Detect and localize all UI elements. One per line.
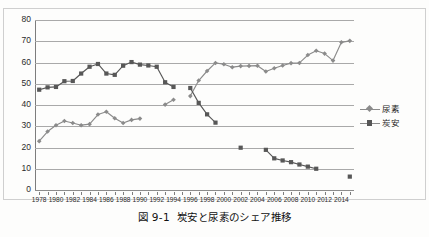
data-point-square (129, 60, 133, 64)
data-point-diamond (272, 66, 277, 71)
x-axis-tick-label: 1980 (49, 196, 64, 204)
data-point-square (171, 85, 175, 89)
data-point-diamond (171, 97, 176, 102)
data-point-square (188, 86, 192, 90)
y-axis-tick-label: 20 (1, 143, 31, 152)
x-axis-tick-label: 2012 (317, 196, 332, 204)
x-axis-tick (224, 192, 225, 195)
x-axis-tick-label: 1994 (166, 196, 181, 204)
data-point-square (314, 167, 318, 171)
data-point-diamond (314, 49, 319, 54)
x-axis-tick-label: 2006 (267, 196, 282, 204)
x-axis-tick (98, 192, 99, 195)
x-axis-tick-label: 1988 (116, 196, 131, 204)
x-axis-tick (132, 192, 133, 195)
x-axis-tick-label: 1986 (99, 196, 114, 204)
x-axis-tick (274, 192, 275, 195)
x-axis-tick-label: 2002 (233, 196, 248, 204)
x-axis-tick (182, 192, 183, 195)
data-point-diamond (339, 40, 344, 45)
x-axis-tick (232, 192, 233, 195)
x-axis-tick (350, 192, 351, 195)
data-point-square (45, 85, 49, 89)
data-point-diamond (129, 118, 134, 123)
data-point-diamond (247, 64, 252, 69)
x-axis-tick (90, 192, 91, 195)
data-point-square (87, 65, 91, 69)
data-series-layer (35, 20, 354, 190)
x-axis-tick (291, 192, 292, 195)
x-axis-tick (257, 192, 258, 195)
data-point-square (205, 112, 209, 116)
data-point-square (348, 175, 352, 179)
data-point-diamond (138, 116, 143, 121)
x-axis-tick (123, 192, 124, 195)
x-axis-tick-label: 1992 (149, 196, 164, 204)
x-axis-tick (115, 192, 116, 195)
x-axis-tick-label: 1982 (65, 196, 80, 204)
x-axis-tick (241, 192, 242, 195)
x-axis-tick (199, 192, 200, 195)
data-point-diamond (79, 123, 84, 128)
data-point-diamond (280, 63, 285, 68)
x-axis-tick (316, 192, 317, 195)
data-point-square (104, 71, 108, 75)
legend-label-urea: 尿素 (380, 104, 400, 114)
series-尿素 (37, 39, 352, 144)
x-axis-tick-label: 2000 (217, 196, 232, 204)
x-axis-tick (333, 192, 334, 195)
data-point-diamond (238, 64, 243, 69)
figure-caption: 図 9-1炭安と尿素のシェア推移 (0, 210, 429, 224)
series-line (39, 62, 173, 90)
x-axis-tick (174, 192, 175, 195)
data-point-square (138, 63, 142, 67)
x-axis-tick (299, 192, 300, 195)
legend-item-urea: 尿素 (360, 102, 424, 116)
y-axis-tick-label: 40 (1, 100, 31, 109)
x-axis-tick (81, 192, 82, 195)
y-axis-tick-label: 50 (1, 79, 31, 88)
x-axis-tick (165, 192, 166, 195)
y-axis-tick-label: 80 (1, 15, 31, 24)
data-point-square (54, 85, 58, 89)
x-axis-tick (215, 192, 216, 195)
data-point-square (213, 121, 217, 125)
data-point-square (96, 62, 100, 66)
x-axis-labels: 1978198019821984198619881990199219941996… (35, 192, 354, 210)
data-point-square (289, 160, 293, 164)
data-point-diamond (62, 119, 67, 124)
x-axis-tick (106, 192, 107, 195)
data-point-square (79, 71, 83, 75)
figure-number: 図 9-1 (138, 211, 171, 223)
data-point-square (264, 148, 268, 152)
data-point-square (121, 64, 125, 68)
x-axis-tick (249, 192, 250, 195)
chart-legend: 尿素 炭安 (360, 102, 424, 132)
x-axis-tick (148, 192, 149, 195)
chart-area: 80706050403020100 1978198019821984198619… (0, 6, 429, 202)
figure-container: 80706050403020100 1978198019821984198619… (0, 0, 429, 237)
x-axis-tick (325, 192, 326, 195)
x-axis-tick (48, 192, 49, 195)
square-icon (360, 118, 380, 128)
data-point-diamond (348, 39, 353, 44)
data-point-square (272, 156, 276, 160)
x-axis-tick-label: 2010 (300, 196, 315, 204)
data-point-square (37, 88, 41, 92)
data-point-square (146, 63, 150, 67)
x-axis-tick (157, 192, 158, 195)
data-point-diamond (222, 62, 227, 67)
diamond-icon (360, 104, 380, 114)
x-axis-tick (190, 192, 191, 195)
data-point-square (197, 101, 201, 105)
x-axis-tick (341, 192, 342, 195)
data-point-square (306, 165, 310, 169)
x-axis-tick-label: 1978 (32, 196, 47, 204)
x-axis-tick-label: 2004 (250, 196, 265, 204)
y-axis-tick-label: 0 (1, 185, 31, 194)
data-point-diamond (70, 121, 75, 126)
y-axis-tick-label: 30 (1, 121, 31, 130)
y-axis-tick-label: 10 (1, 164, 31, 173)
series-line (39, 112, 140, 141)
data-point-diamond (121, 121, 126, 126)
